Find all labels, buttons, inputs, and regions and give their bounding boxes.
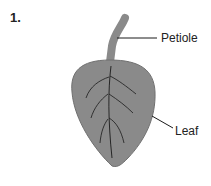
leaf-label: Leaf [175, 124, 198, 138]
leaf-leader-line [152, 116, 173, 128]
leaf-diagram [0, 0, 211, 186]
petiole-label: Petiole [161, 31, 198, 45]
leaf-blade [72, 60, 155, 167]
petiole-shape [110, 18, 125, 62]
